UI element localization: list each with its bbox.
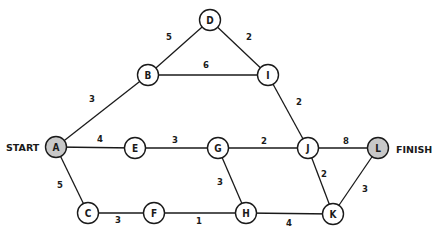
node-label: K [330, 209, 338, 220]
edge-weight-g-j: 2 [261, 136, 267, 146]
weighted-graph-diagram: 3526243285313423 ABDIEGJLCFHK START FINI… [0, 0, 432, 240]
edge-weight-j-l: 8 [343, 136, 349, 146]
node-l: L [368, 138, 389, 159]
node-label: D [206, 15, 213, 26]
edge-weight-b-i: 6 [203, 60, 209, 70]
edge-weight-e-g: 3 [172, 135, 178, 145]
edge-weight-g-h: 3 [217, 177, 223, 187]
node-label: L [375, 143, 381, 154]
edge-weight-i-j: 2 [296, 97, 302, 107]
node-j: J [298, 138, 319, 159]
edge-a-e [56, 147, 135, 148]
edge-h-k [246, 213, 333, 214]
node-label: A [53, 142, 60, 153]
edge-weight-h-k: 4 [286, 218, 292, 228]
node-label: I [266, 70, 269, 81]
node-label: J [305, 143, 309, 154]
edge-weight-b-d: 5 [166, 32, 172, 42]
edge-l-k [333, 148, 378, 214]
node-label: F [151, 208, 157, 219]
node-a: A [46, 137, 67, 158]
start-label: START [6, 142, 40, 153]
edge-i-j [268, 75, 308, 148]
node-i: I [258, 65, 279, 86]
edge-weight-l-k: 3 [362, 184, 368, 194]
finish-label: FINISH [396, 144, 432, 155]
node-label: B [145, 70, 152, 81]
node-e: E [125, 138, 146, 159]
edge-weight-j-k: 2 [321, 169, 327, 179]
node-g: G [208, 138, 229, 159]
node-d: D [200, 10, 221, 31]
edge-weight-f-h: 1 [196, 216, 202, 226]
edge-weight-d-i: 2 [246, 32, 252, 42]
node-label: E [132, 143, 138, 154]
edge-weight-a-b: 3 [89, 94, 95, 104]
node-f: F [144, 203, 165, 224]
node-label: H [242, 208, 250, 219]
node-c: C [78, 203, 99, 224]
edge-weights-layer: 3526243285313423 [57, 32, 368, 228]
node-b: B [138, 65, 159, 86]
nodes-layer: ABDIEGJLCFHK [46, 10, 389, 225]
node-label: G [214, 143, 221, 154]
edge-d-i [210, 20, 268, 75]
node-k: K [323, 204, 344, 225]
node-h: H [236, 203, 257, 224]
edge-b-d [148, 20, 210, 75]
edge-weight-a-e: 4 [97, 134, 103, 144]
node-label: C [85, 208, 92, 219]
edge-weight-a-c: 5 [57, 180, 63, 190]
edge-weight-c-f: 3 [115, 215, 121, 225]
